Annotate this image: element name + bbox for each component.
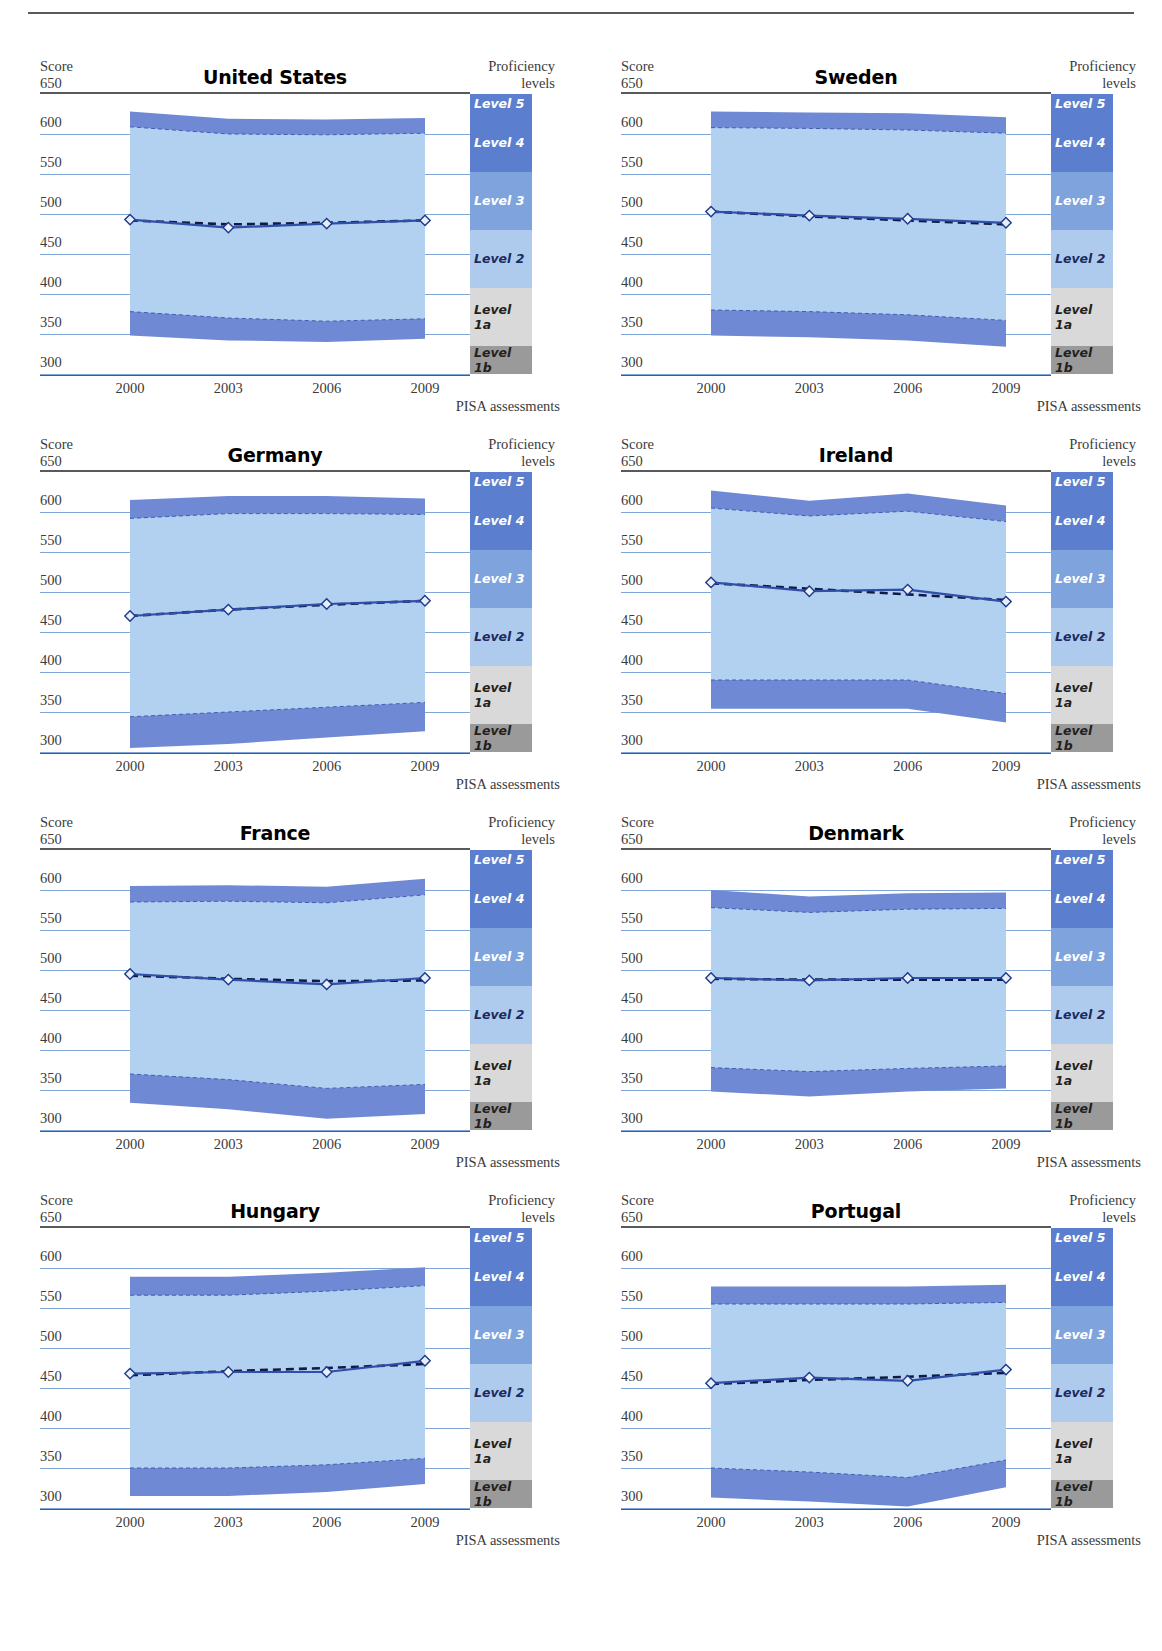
proficiency-level-label: Level 2 [1055,251,1105,266]
proficiency-level-level-5[interactable]: Level 5 [470,1228,532,1248]
proficiency-level-level-4[interactable]: Level 4 [1051,114,1113,172]
proficiency-level-label: Level 5 [1055,852,1105,867]
proficiency-level-label: Level 3 [474,949,524,964]
proficiency-level-label: Level 1a [1055,1058,1113,1088]
plot-area [621,850,1051,1130]
x-tick-2000: 2000 [681,1514,741,1531]
proficiency-level-label: Level 4 [474,513,524,528]
proficiency-level-level-5[interactable]: Level 5 [1051,1228,1113,1248]
proficiency-level-level-1a[interactable]: Level 1a [1051,666,1113,724]
x-tick-2003: 2003 [198,1514,258,1531]
x-tick-2009: 2009 [395,380,455,397]
proficiency-legend-title: Proficiencylevels [1069,436,1136,470]
proficiency-level-label: Level 1a [1055,1436,1113,1466]
y-axis-title-text: Score [621,58,654,75]
proficiency-level-level-5[interactable]: Level 5 [470,472,532,492]
proficiency-level-level-3[interactable]: Level 3 [470,172,532,230]
x-tick-2006: 2006 [297,1136,357,1153]
proficiency-level-level-1b[interactable]: Level 1b [1051,1480,1113,1508]
proficiency-level-level-3[interactable]: Level 3 [470,1306,532,1364]
proficiency-level-level-2[interactable]: Level 2 [1051,608,1113,666]
proficiency-level-level-4[interactable]: Level 4 [1051,1248,1113,1306]
proficiency-level-level-2[interactable]: Level 2 [470,608,532,666]
proficiency-level-level-3[interactable]: Level 3 [1051,928,1113,986]
proficiency-level-label: Level 2 [474,1385,524,1400]
x-tick-2009: 2009 [395,758,455,775]
y-axis-title: Score650 [40,436,73,470]
pisa-figure-page: Score650United StatesProficiencylevels60… [0,0,1162,1651]
proficiency-level-level-4[interactable]: Level 4 [1051,492,1113,550]
proficiency-level-level-3[interactable]: Level 3 [470,928,532,986]
x-tick-2006: 2006 [297,1514,357,1531]
panel-title: Sweden [711,66,1001,88]
proficiency-level-level-1b[interactable]: Level 1b [1051,346,1113,374]
proficiency-level-level-4[interactable]: Level 4 [470,1248,532,1306]
x-tick-2003: 2003 [198,758,258,775]
proficiency-level-level-2[interactable]: Level 2 [1051,230,1113,288]
proficiency-level-level-3[interactable]: Level 3 [1051,1306,1113,1364]
proficiency-level-level-4[interactable]: Level 4 [470,492,532,550]
chart-panel-france: Score650FranceProficiencylevels600550500… [0,778,581,1156]
proficiency-levels-bar: Level 5Level 4Level 3Level 2Level 1aLeve… [470,472,532,752]
proficiency-level-level-2[interactable]: Level 2 [470,230,532,288]
x-tick-2006: 2006 [297,758,357,775]
proficiency-level-label: Level 1b [474,723,532,753]
proficiency-level-label: Level 4 [474,891,524,906]
proficiency-level-level-2[interactable]: Level 2 [1051,986,1113,1044]
proficiency-level-label: Level 4 [1055,135,1105,150]
gridline-300 [621,1508,1051,1509]
proficiency-level-label: Level 1b [1055,1479,1113,1509]
proficiency-level-level-1b[interactable]: Level 1b [470,724,532,752]
proficiency-level-level-4[interactable]: Level 4 [470,114,532,172]
proficiency-level-level-1a[interactable]: Level 1a [470,288,532,346]
y-axis-title: Score650 [40,1192,73,1226]
gridline-300 [621,374,1051,375]
proficiency-level-label: Level 3 [474,193,524,208]
proficiency-level-level-5[interactable]: Level 5 [1051,850,1113,870]
proficiency-level-label: Level 2 [1055,1007,1105,1022]
proficiency-level-level-1a[interactable]: Level 1a [1051,288,1113,346]
panel-title: Germany [130,444,420,466]
proficiency-level-level-1b[interactable]: Level 1b [1051,1102,1113,1130]
proficiency-level-level-1b[interactable]: Level 1b [470,346,532,374]
proficiency-level-level-1a[interactable]: Level 1a [1051,1422,1113,1480]
proficiency-level-level-4[interactable]: Level 4 [470,870,532,928]
chart-panel-united-states: Score650United StatesProficiencylevels60… [0,22,581,400]
proficiency-levels-bar: Level 5Level 4Level 3Level 2Level 1aLeve… [1051,94,1113,374]
proficiency-level-level-1b[interactable]: Level 1b [470,1480,532,1508]
proficiency-level-level-3[interactable]: Level 3 [1051,550,1113,608]
chart-panel-hungary: Score650HungaryProficiencylevels60055050… [0,1156,581,1534]
y-axis-title: Score650 [621,814,654,848]
proficiency-level-label: Level 4 [474,135,524,150]
x-tick-2009: 2009 [976,1136,1036,1153]
proficiency-legend-title: Proficiencylevels [1069,58,1136,92]
plot-area [40,1228,470,1508]
proficiency-level-level-1b[interactable]: Level 1b [470,1102,532,1130]
proficiency-level-label: Level 5 [1055,474,1105,489]
proficiency-level-level-5[interactable]: Level 5 [470,94,532,114]
proficiency-level-level-5[interactable]: Level 5 [470,850,532,870]
panel-title: United States [130,66,420,88]
x-tick-2000: 2000 [681,1136,741,1153]
proficiency-level-level-5[interactable]: Level 5 [1051,472,1113,492]
proficiency-level-level-1a[interactable]: Level 1a [470,1422,532,1480]
proficiency-legend-title: Proficiencylevels [488,436,555,470]
proficiency-level-level-1a[interactable]: Level 1a [470,1044,532,1102]
proficiency-level-level-3[interactable]: Level 3 [470,550,532,608]
proficiency-level-level-1a[interactable]: Level 1a [470,666,532,724]
proficiency-level-level-2[interactable]: Level 2 [470,1364,532,1422]
plot-area [621,1228,1051,1508]
percentile-band-10-90 [130,514,425,717]
proficiency-level-level-3[interactable]: Level 3 [1051,172,1113,230]
proficiency-level-level-1a[interactable]: Level 1a [1051,1044,1113,1102]
proficiency-level-level-4[interactable]: Level 4 [1051,870,1113,928]
proficiency-level-label: Level 4 [1055,513,1105,528]
proficiency-level-label: Level 1b [1055,345,1113,375]
plot-area [621,472,1051,752]
proficiency-level-level-5[interactable]: Level 5 [1051,94,1113,114]
chart-panel-portugal: Score650PortugalProficiencylevels6005505… [581,1156,1162,1534]
panel-title: Ireland [711,444,1001,466]
proficiency-level-level-1b[interactable]: Level 1b [1051,724,1113,752]
proficiency-level-level-2[interactable]: Level 2 [470,986,532,1044]
proficiency-level-level-2[interactable]: Level 2 [1051,1364,1113,1422]
